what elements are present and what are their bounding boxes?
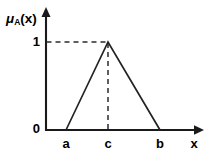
x-tick-label-c: c [102, 136, 114, 151]
x-tick-label-b: b [154, 136, 166, 151]
y-tick-label-zero: 0 [27, 121, 40, 136]
x-tick-label-a: a [60, 136, 72, 151]
triangular-membership-curve [66, 42, 160, 130]
y-axis-title-arg: (x) [20, 11, 37, 26]
x-axis-title: x [188, 136, 200, 151]
y-tick-label-one: 1 [27, 34, 40, 49]
y-axis-title-subscript: A [14, 17, 20, 27]
y-axis-title: μA(x) [6, 9, 37, 27]
y-axis-title-mu: μ [6, 11, 14, 26]
x-axis-arrowhead-icon [194, 125, 204, 135]
y-axis-arrowhead-icon [42, 7, 51, 17]
membership-function-figure: μA(x) 1 0 a c b x [0, 0, 213, 156]
